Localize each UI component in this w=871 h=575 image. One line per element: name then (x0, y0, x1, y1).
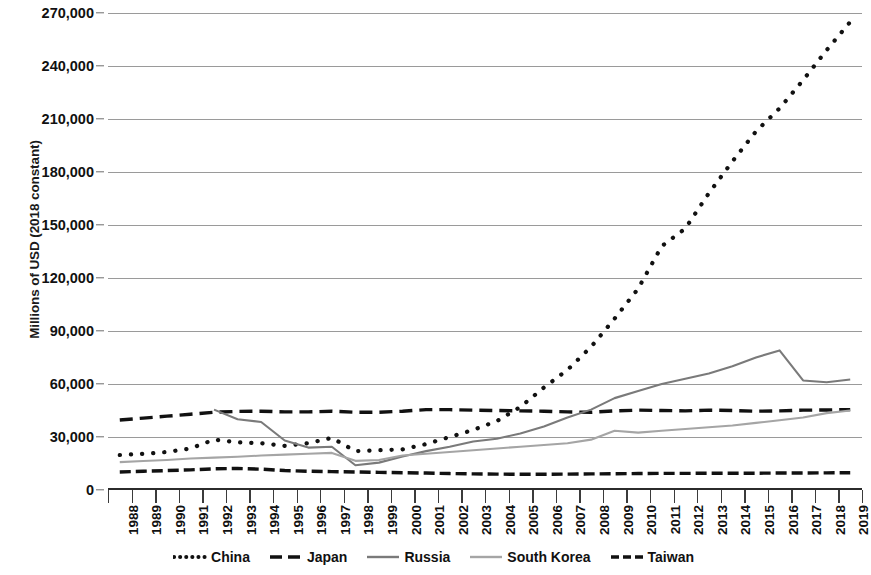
x-tick-mark (862, 490, 863, 503)
y-tick-label: 210,000 (42, 111, 94, 127)
x-axis-label: 2004 (503, 505, 518, 535)
legend-label: Taiwan (648, 549, 694, 565)
x-axis-label: 1997 (338, 505, 353, 535)
x-axis-label: 2016 (786, 505, 801, 535)
x-tick-mark (155, 490, 156, 503)
y-tick-mark (96, 383, 104, 384)
x-axis-label: 1999 (385, 505, 400, 535)
x-tick-mark (579, 490, 580, 503)
chart-legend: ChinaJapanRussiaSouth KoreaTaiwan (0, 549, 867, 565)
y-tick-label: 90,000 (50, 323, 94, 339)
x-tick-mark (485, 490, 486, 503)
x-tick-mark (532, 490, 533, 503)
x-axis-label: 2000 (409, 505, 424, 535)
series-lines (108, 13, 862, 490)
x-tick-mark (744, 490, 745, 503)
y-tick-mark (96, 65, 104, 66)
x-tick-mark (414, 490, 415, 503)
series-line-taiwan (120, 468, 850, 474)
x-axis-label: 2010 (644, 505, 659, 535)
legend-label: Japan (307, 549, 347, 565)
legend-label: China (211, 549, 250, 565)
x-axis-tickmarks (108, 490, 862, 504)
x-axis-label: 2017 (809, 505, 824, 535)
legend-item-japan[interactable]: Japan (269, 549, 347, 565)
y-tick-label: 270,000 (42, 5, 94, 21)
x-tick-mark (674, 490, 675, 503)
x-tick-mark (721, 490, 722, 503)
y-axis-ticks: 030,00060,00090,000120,000150,000180,000… (26, 0, 104, 575)
x-axis-label: 1996 (314, 505, 329, 535)
x-tick-mark (603, 490, 604, 503)
legend-swatch-solid-icon (469, 551, 503, 563)
x-tick-mark (226, 490, 227, 503)
x-tick-mark (697, 490, 698, 503)
x-axis-label: 1994 (267, 505, 282, 535)
y-tick-label: 180,000 (42, 164, 94, 180)
x-axis-label: 1989 (149, 505, 164, 535)
x-axis-label: 2011 (668, 505, 683, 534)
x-axis-label: 1992 (220, 505, 235, 535)
y-tick-mark (96, 118, 104, 119)
series-line-russia (214, 350, 850, 465)
y-tick-mark (96, 171, 104, 172)
x-axis-label: 1998 (361, 505, 376, 535)
x-tick-mark (509, 490, 510, 503)
y-tick-mark (96, 436, 104, 437)
x-tick-mark (438, 490, 439, 503)
x-axis-label: 1990 (173, 505, 188, 535)
legend-item-taiwan[interactable]: Taiwan (610, 549, 694, 565)
x-axis-label: 2014 (738, 505, 753, 535)
y-tick-label: 60,000 (50, 376, 94, 392)
y-tick-label: 30,000 (50, 429, 94, 445)
plot-area (108, 13, 862, 490)
x-axis-label: 2012 (691, 505, 706, 535)
y-tick-mark (96, 277, 104, 278)
y-tick-label: 120,000 (42, 270, 94, 286)
x-tick-mark (626, 490, 627, 503)
x-tick-mark (202, 490, 203, 503)
x-tick-mark (391, 490, 392, 503)
x-axis-label: 2019 (856, 505, 871, 535)
legend-item-china[interactable]: China (173, 549, 250, 565)
x-tick-mark (297, 490, 298, 503)
y-tick-mark (96, 12, 104, 13)
y-tick-label: 240,000 (42, 58, 94, 74)
x-axis-label: 2001 (432, 505, 447, 535)
x-tick-mark (344, 490, 345, 503)
y-tick-mark (96, 330, 104, 331)
legend-label: South Korea (507, 549, 590, 565)
x-tick-mark (791, 490, 792, 503)
x-tick-mark (461, 490, 462, 503)
x-tick-mark (768, 490, 769, 503)
series-line-china (120, 22, 850, 455)
x-tick-mark (273, 490, 274, 503)
series-line-south-korea (120, 411, 850, 463)
x-axis-label: 2009 (621, 505, 636, 535)
x-axis-label: 2003 (479, 505, 494, 535)
x-tick-mark (815, 490, 816, 503)
x-axis-label: 2006 (550, 505, 565, 535)
x-tick-mark (249, 490, 250, 503)
x-tick-mark (838, 490, 839, 503)
legend-swatch-dotted-icon (173, 551, 207, 563)
y-tick-mark (96, 489, 104, 490)
x-axis-label: 2005 (526, 505, 541, 535)
x-tick-mark (108, 490, 109, 503)
legend-swatch-dashed-icon (269, 551, 303, 563)
x-tick-mark (179, 490, 180, 503)
x-tick-mark (132, 490, 133, 503)
legend-label: Russia (404, 549, 450, 565)
x-tick-mark (556, 490, 557, 503)
y-tick-label: 150,000 (42, 217, 94, 233)
x-axis-label: 2007 (573, 505, 588, 535)
y-tick-label: 0 (86, 482, 94, 498)
y-tick-mark (96, 224, 104, 225)
legend-swatch-dashdot-icon (610, 551, 644, 563)
x-axis-label: 1988 (126, 505, 141, 535)
x-axis-label: 2018 (833, 505, 848, 535)
legend-item-south-korea[interactable]: South Korea (469, 549, 590, 565)
legend-item-russia[interactable]: Russia (366, 549, 450, 565)
x-axis-label: 2008 (597, 505, 612, 535)
